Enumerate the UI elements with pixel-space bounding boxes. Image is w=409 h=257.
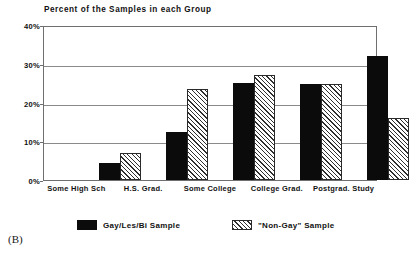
bar [254, 75, 275, 180]
y-tick-mark [40, 181, 43, 182]
y-tick-mark [40, 65, 43, 66]
legend-swatch-hatched [232, 220, 252, 230]
y-tick-mark [40, 26, 43, 27]
bar [300, 84, 321, 180]
legend-entry: Gay/Les/Bi Sample [77, 218, 180, 232]
gridline-30 [44, 66, 376, 67]
bar [99, 163, 120, 180]
plot-area [43, 26, 377, 181]
y-tick-label: 30% [6, 60, 40, 69]
legend-swatch-solid [77, 220, 97, 230]
y-tick-label: 0% [6, 177, 40, 186]
y-tick-label: 20% [6, 99, 40, 108]
bar [120, 153, 141, 180]
y-tick-label: 10% [6, 138, 40, 147]
bar [321, 84, 342, 180]
y-tick-mark [40, 142, 43, 143]
bar [367, 56, 388, 180]
chart-legend: Gay/Les/Bi Sample"Non-Gay" Sample [0, 218, 389, 236]
x-axis-label: H.S. Grad. [124, 184, 163, 193]
panel-letter: (B) [8, 233, 23, 245]
x-axis-label: Postgrad. Study [313, 184, 374, 193]
bar [388, 118, 409, 180]
legend-entry: "Non-Gay" Sample [232, 218, 334, 232]
y-tick-label: 40% [6, 22, 40, 31]
x-axis-label: Some College [184, 184, 237, 193]
legend-label: "Non-Gay" Sample [258, 221, 334, 230]
bar [166, 132, 187, 180]
y-tick-mark [40, 104, 43, 105]
bar [187, 89, 208, 180]
x-axis-label: Some High Sch [47, 184, 105, 193]
chart-title: Percent of the Samples in each Group [44, 5, 212, 14]
x-axis-label: College Grad. [251, 184, 303, 193]
bar [233, 83, 254, 180]
legend-label: Gay/Les/Bi Sample [103, 221, 180, 230]
